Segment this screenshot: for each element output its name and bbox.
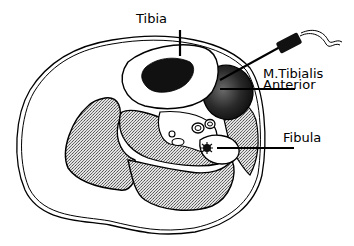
tibialis-anterior-label-line2: Anterior [263,79,323,90]
tibialis-anterior-label: M.Tibialis Anterior [263,68,323,90]
tibia-label: Tibia [136,12,167,25]
fibula-label: Fibula [283,131,321,144]
leg-cross-section-diagram [0,0,354,246]
